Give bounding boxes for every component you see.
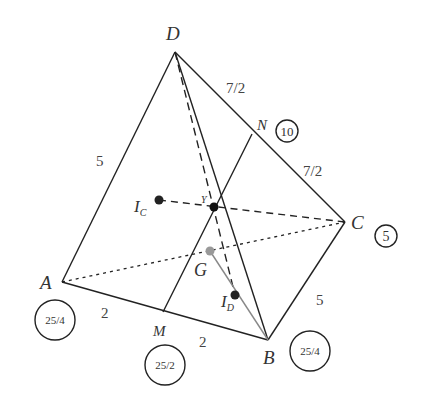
- edge-DA: [62, 52, 175, 282]
- point-IC: [155, 196, 164, 205]
- weight-C: 5: [375, 225, 397, 247]
- label-B: B: [263, 347, 275, 368]
- label-A: A: [38, 272, 52, 293]
- svg-text:10: 10: [281, 124, 294, 139]
- dashed-IC-C: [159, 200, 345, 222]
- label-C: C: [351, 212, 364, 233]
- edge-label-AM: 2: [101, 305, 109, 321]
- svg-text:25/4: 25/4: [45, 314, 65, 326]
- label-N: N: [256, 117, 268, 133]
- edge-label-NC: 7/2: [303, 163, 322, 179]
- edge-CB: [268, 222, 345, 340]
- label-IC: IC: [133, 197, 147, 218]
- edge-label-CB: 5: [316, 292, 324, 308]
- point-Y: [210, 203, 219, 212]
- svg-text:25/2: 25/2: [155, 359, 175, 371]
- weight-N: 10: [276, 120, 298, 142]
- svg-text:25/4: 25/4: [300, 345, 320, 357]
- segment-MN: [163, 134, 252, 312]
- weight-M: 25/2: [145, 345, 185, 385]
- point-ID: [231, 291, 240, 300]
- edge-label-DN: 7/2: [226, 80, 245, 96]
- label-Y: Y: [201, 194, 208, 205]
- diagram-svg: D A B C M N Y G IC ID 5 7/2 7/2 5 2 2 25…: [0, 0, 425, 413]
- label-G: G: [194, 260, 207, 280]
- svg-text:5: 5: [383, 229, 390, 244]
- edge-label-DA: 5: [96, 153, 104, 169]
- point-G: [206, 247, 215, 256]
- label-M: M: [152, 323, 167, 339]
- tetrahedron-diagram: D A B C M N Y G IC ID 5 7/2 7/2 5 2 2 25…: [0, 0, 425, 413]
- edge-label-MB: 2: [199, 334, 207, 350]
- weight-A: 25/4: [35, 300, 75, 340]
- label-D: D: [165, 23, 180, 44]
- weight-B: 25/4: [290, 331, 330, 371]
